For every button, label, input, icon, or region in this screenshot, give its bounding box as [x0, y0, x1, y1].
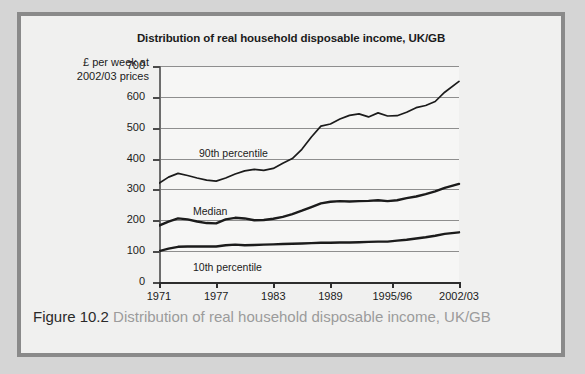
- y-tick-label-200: 200: [105, 213, 145, 225]
- x-tick-label-2: 1983: [241, 290, 305, 302]
- y-tick-400: [153, 159, 160, 161]
- y-tick-100: [153, 251, 160, 253]
- x-tick-4: [392, 282, 394, 288]
- x-tick-1: [216, 282, 218, 288]
- y-tick-label-400: 400: [105, 152, 145, 164]
- figure-panel: Distribution of real household disposabl…: [21, 16, 561, 353]
- x-tick-label-0: 1971: [127, 290, 191, 302]
- chart-container: Distribution of real household disposabl…: [21, 16, 561, 306]
- series-label-90th-percentile: 90th percentile: [199, 147, 268, 159]
- y-tick-200: [153, 220, 160, 222]
- y-tick-label-0: 0: [105, 275, 145, 287]
- figure-caption: Figure 10.2 Distribution of real househo…: [33, 307, 549, 327]
- series-line-90th-percentile: [159, 81, 459, 183]
- figure-frame: Distribution of real household disposabl…: [17, 12, 565, 357]
- plot-wrapper: 90th percentile Median 10th percentile 0…: [21, 16, 561, 306]
- y-tick-700: [153, 66, 160, 68]
- y-tick-label-500: 500: [105, 121, 145, 133]
- series-line-10th-percentile: [159, 232, 459, 251]
- y-tick-label-700: 700: [105, 59, 145, 71]
- x-tick-label-4: 1995/96: [360, 290, 424, 302]
- y-tick-label-300: 300: [105, 182, 145, 194]
- x-tick-3: [330, 282, 332, 288]
- y-tick-600: [153, 97, 160, 99]
- x-tick-2: [273, 282, 275, 288]
- page-background: Distribution of real household disposabl…: [0, 0, 585, 374]
- series-curves: [159, 66, 461, 284]
- y-tick-label-600: 600: [105, 90, 145, 102]
- series-label-median: Median: [193, 205, 227, 217]
- x-tick-label-5: 2002/03: [427, 290, 491, 302]
- y-tick-500: [153, 128, 160, 130]
- y-tick-300: [153, 189, 160, 191]
- x-tick-0: [159, 282, 161, 288]
- x-tick-label-3: 1989: [298, 290, 362, 302]
- figure-caption-text: Distribution of real household disposabl…: [113, 308, 491, 325]
- figure-number: Figure 10.2: [33, 308, 109, 325]
- series-label-10th-percentile: 10th percentile: [193, 261, 262, 273]
- x-tick-5: [459, 282, 461, 288]
- x-tick-label-1: 1977: [184, 290, 248, 302]
- y-tick-label-100: 100: [105, 244, 145, 256]
